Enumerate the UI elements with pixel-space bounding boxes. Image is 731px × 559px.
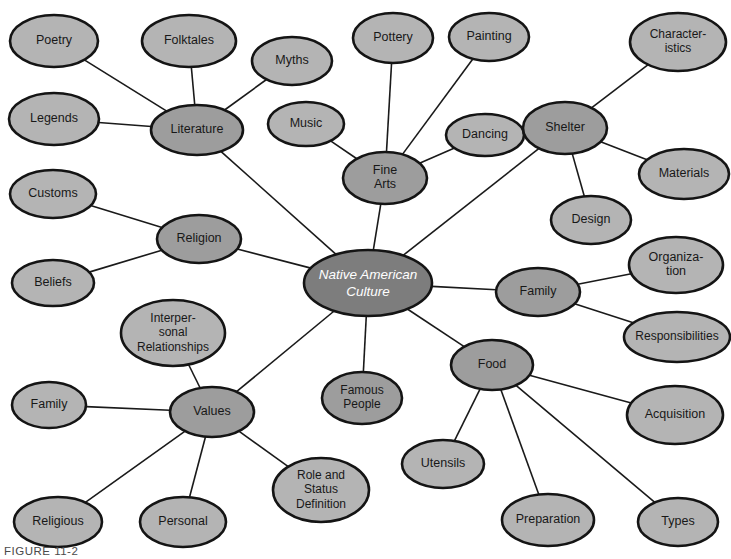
node-customs[interactable]: Customs [10,170,96,218]
node-design[interactable]: Design [551,196,631,244]
node-organization[interactable]: Organiza-tion [629,237,723,293]
node-shape-types [638,498,718,546]
edge-center-to-religion [237,249,311,268]
edge-fine-arts-to-music [331,141,357,159]
node-shape-family-left [12,382,86,428]
node-shape-values [170,387,254,437]
edge-fine-arts-to-pottery [386,63,391,152]
node-shape-beliefs [12,260,94,306]
edge-family-right-to-responsibilities [575,304,634,323]
node-famous-people[interactable]: FamousPeople [322,372,402,424]
edge-values-to-role-status [239,431,288,466]
edge-food-to-preparation [501,389,539,494]
node-shape-personal [140,497,226,547]
node-shape-painting [449,13,529,61]
node-shape-materials [639,149,729,199]
node-shape-dancing [446,114,524,156]
node-shape-family-right [496,268,580,316]
edge-center-to-fine-arts [373,204,380,250]
node-shape-preparation [502,494,594,546]
node-characteristics[interactable]: Character-istics [630,13,726,71]
node-shape-center [304,250,432,316]
edge-values-to-personal [190,437,206,498]
node-shape-food [451,340,533,390]
node-shape-role-status [273,458,369,522]
node-layer: LiteraturePoetryFolktalesMythsLegendsFin… [9,13,730,547]
edge-values-to-interpersonal-relationships [189,364,201,388]
concept-map-canvas: LiteraturePoetryFolktalesMythsLegendsFin… [0,0,731,559]
node-shape-customs [10,170,96,218]
node-center[interactable]: Native AmericanCulture [304,250,432,316]
node-shape-pottery [353,13,433,63]
node-poetry[interactable]: Poetry [10,15,98,67]
edge-shelter-to-design [572,154,584,197]
edge-literature-to-legends [99,122,152,126]
node-pottery[interactable]: Pottery [353,13,433,63]
node-shape-folktales [142,15,236,67]
node-painting[interactable]: Painting [449,13,529,61]
node-preparation[interactable]: Preparation [502,494,594,546]
node-shape-literature [151,105,243,155]
edge-center-to-shelter [403,148,539,255]
node-shape-design [551,196,631,244]
node-shape-myths [252,37,332,85]
node-myths[interactable]: Myths [252,37,332,85]
node-shape-religion [157,215,241,263]
edge-literature-to-folktales [191,67,194,105]
node-role-status[interactable]: Role andStatusDefinition [273,458,369,522]
edge-values-to-religious [85,431,185,502]
node-religious[interactable]: Religious [14,497,102,547]
node-shape-characteristics [630,13,726,71]
node-shelter[interactable]: Shelter [523,102,607,154]
node-shape-responsibilities [624,312,730,362]
node-literature[interactable]: Literature [151,105,243,155]
concept-map-figure: LiteraturePoetryFolktalesMythsLegendsFin… [0,0,731,559]
edge-center-to-values [237,311,335,392]
node-values[interactable]: Values [170,387,254,437]
node-acquisition[interactable]: Acquisition [627,386,723,444]
node-materials[interactable]: Materials [639,149,729,199]
node-shape-acquisition [627,386,723,444]
edge-center-to-food [407,309,464,347]
edge-fine-arts-to-dancing [419,148,454,163]
node-music[interactable]: Music [268,102,344,146]
edge-shelter-to-materials [601,142,647,160]
node-personal[interactable]: Personal [140,497,226,547]
figure-caption: FIGURE 11-2 [4,545,78,559]
node-shape-poetry [10,15,98,67]
edge-food-to-utensils [454,389,480,441]
edge-religion-to-customs [91,206,162,228]
node-family-left[interactable]: Family [12,382,86,428]
node-shape-music [268,102,344,146]
node-types[interactable]: Types [638,498,718,546]
node-religion[interactable]: Religion [157,215,241,263]
node-shape-interpersonal-relationships [121,300,225,366]
node-shape-fine-arts [343,152,427,204]
node-food[interactable]: Food [451,340,533,390]
node-utensils[interactable]: Utensils [402,440,484,488]
node-shape-famous-people [322,372,402,424]
edge-literature-to-poetry [84,60,166,111]
edge-center-to-family-right [432,286,497,289]
edge-values-to-family-left [86,407,170,411]
edge-food-to-acquisition [529,375,631,403]
node-interpersonal-relationships[interactable]: Interper-sonalRelationships [121,300,225,366]
edge-religion-to-beliefs [89,250,162,272]
node-shape-shelter [523,102,607,154]
node-shape-organization [629,237,723,293]
edge-center-to-famous-people [363,316,366,372]
node-shape-legends [9,93,99,145]
edge-shelter-to-characteristics [592,65,649,108]
node-responsibilities[interactable]: Responsibilities [624,312,730,362]
node-legends[interactable]: Legends [9,93,99,145]
node-family-right[interactable]: Family [496,268,580,316]
edge-literature-to-myths [225,80,267,110]
node-shape-utensils [402,440,484,488]
edge-family-right-to-organization [578,274,632,284]
node-beliefs[interactable]: Beliefs [12,260,94,306]
node-shape-religious [14,497,102,547]
node-folktales[interactable]: Folktales [142,15,236,67]
node-dancing[interactable]: Dancing [446,114,524,156]
node-fine-arts[interactable]: FineArts [343,152,427,204]
